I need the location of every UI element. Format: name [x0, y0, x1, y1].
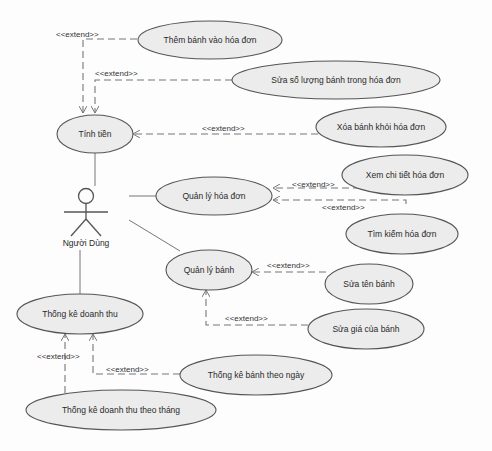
use-case-sua-so-luong[interactable]: Sửa số lượng bánh trong hóa đơn [232, 61, 440, 99]
use-case-xem-chi-tiet[interactable]: Xem chi tiết hóa đơn [342, 155, 468, 195]
extend-label: <<extend>> [267, 261, 310, 270]
svg-text:Xem chi tiết hóa đơn: Xem chi tiết hóa đơn [366, 170, 445, 180]
use-case-xoa-banh[interactable]: Xóa bánh khỏi hóa đơn [316, 107, 446, 147]
extend-label: <<extend>> [292, 180, 335, 189]
actor-head-icon [79, 189, 94, 204]
use-case-diagram: <<extend>> <<extend>> <<extend>> <<exten… [0, 0, 492, 451]
svg-text:Tính tiền: Tính tiền [78, 129, 111, 139]
svg-text:Thống kê bánh theo ngày: Thống kê bánh theo ngày [208, 370, 305, 380]
use-case-quan-ly-banh[interactable]: Quản lý bánh [166, 250, 252, 290]
svg-text:Sửa giá của bánh: Sửa giá của bánh [332, 324, 399, 334]
use-case-sua-ten-banh[interactable]: Sửa tên bánh [325, 264, 413, 304]
use-cases: Thêm bánh vào hóa đơn Sửa số lượng bánh … [17, 21, 468, 430]
extend-label: <<extend>> [322, 203, 365, 212]
svg-text:Quản lý bánh: Quản lý bánh [184, 265, 235, 275]
use-case-tim-kiem[interactable]: Tìm kiếm hóa đơn [346, 214, 458, 254]
svg-text:Tìm kiếm hóa đơn: Tìm kiếm hóa đơn [368, 229, 437, 239]
svg-text:Sửa số lượng bánh trong hóa đơ: Sửa số lượng bánh trong hóa đơn [271, 75, 401, 85]
extend-sua-so-luong [95, 80, 232, 113]
use-case-thong-ke-thang[interactable]: Thống kê doanh thu theo tháng [26, 390, 216, 430]
actor-leg-left-icon [71, 219, 86, 236]
extend-label: <<extend>> [56, 30, 99, 39]
svg-text:Xóa bánh khỏi hóa đơn: Xóa bánh khỏi hóa đơn [337, 122, 426, 132]
use-case-thong-ke-banh-ngay[interactable]: Thống kê bánh theo ngày [180, 355, 332, 395]
extend-label: <<extend>> [202, 124, 245, 133]
use-case-thong-ke-doanh-thu[interactable]: Thống kê doanh thu [17, 294, 143, 334]
use-case-quan-ly-hoa-don[interactable]: Quản lý hóa đơn [156, 177, 272, 215]
svg-text:Thống kê doanh thu theo tháng: Thống kê doanh thu theo tháng [62, 405, 180, 415]
actor-leg-right-icon [86, 219, 101, 236]
use-case-sua-gia[interactable]: Sửa giá của bánh [308, 309, 424, 349]
svg-text:Thêm bánh vào hóa đơn: Thêm bánh vào hóa đơn [164, 35, 257, 45]
extend-label: <<extend>> [225, 314, 268, 323]
extend-label: <<extend>> [95, 69, 138, 78]
extend-label: <<extend>> [37, 352, 80, 361]
diagram-svg: <<extend>> <<extend>> <<extend>> <<exten… [0, 0, 492, 451]
svg-text:Sửa tên bánh: Sửa tên bánh [343, 279, 395, 289]
svg-text:Thống kê doanh thu: Thống kê doanh thu [42, 309, 118, 319]
assoc-actor-quan-ly-banh [129, 220, 180, 251]
actor-label: Người Dùng [63, 238, 110, 248]
actor-nguoi-dung[interactable]: Người Dùng [63, 189, 110, 249]
use-case-them-banh[interactable]: Thêm bánh vào hóa đơn [138, 21, 282, 59]
associations [80, 149, 180, 294]
svg-text:Quản lý hóa đơn: Quản lý hóa đơn [182, 191, 245, 201]
use-case-tinh-tien[interactable]: Tính tiền [57, 115, 133, 153]
extend-label: <<extend>> [106, 365, 149, 374]
